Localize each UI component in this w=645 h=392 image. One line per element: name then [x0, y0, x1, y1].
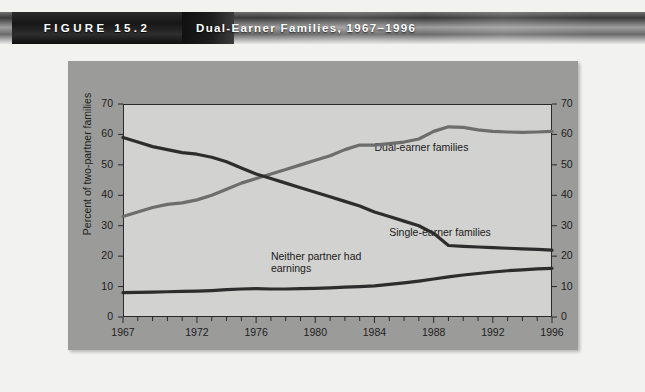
x-tick-label: 1996 — [532, 326, 572, 338]
y-tick-label-left: 50 — [89, 158, 113, 170]
series-annotation-neither-partner-had-earnings: Neither partner had earnings — [271, 250, 361, 274]
y-tick-label-left: 10 — [89, 280, 113, 292]
y-tick-label-left: 20 — [89, 249, 113, 261]
y-tick-label-left: 0 — [89, 310, 113, 322]
y-tick-label-right: 70 — [561, 97, 585, 109]
y-tick-label-left: 30 — [89, 219, 113, 231]
x-tick-label: 1967 — [103, 326, 143, 338]
x-tick-label: 1976 — [236, 326, 276, 338]
y-tick-label-right: 10 — [561, 280, 585, 292]
y-tick-label-right: 50 — [561, 158, 585, 170]
y-tick-label-right: 30 — [561, 219, 585, 231]
y-tick-label-left: 40 — [89, 188, 113, 200]
series-annotation-single-earner-families: Single-earner families — [389, 226, 491, 238]
x-tick-label: 1980 — [295, 326, 335, 338]
x-tick-label: 1972 — [177, 326, 217, 338]
y-tick-label-right: 60 — [561, 127, 585, 139]
y-tick-label-left: 60 — [89, 127, 113, 139]
y-tick-label-right: 40 — [561, 188, 585, 200]
series-annotation-dual-earner-families: Dual-earner families — [374, 141, 468, 153]
y-tick-label-right: 20 — [561, 249, 585, 261]
y-tick-label-left: 70 — [89, 97, 113, 109]
plot-area — [123, 104, 552, 317]
x-tick-label: 1988 — [414, 326, 454, 338]
figure-number-badge: FIGURE 15.2 — [12, 12, 182, 44]
figure-title: Dual-Earner Families, 1967–1996 — [196, 12, 416, 44]
figure-number-label: FIGURE 15.2 — [44, 22, 150, 34]
y-tick-label-right: 0 — [561, 310, 585, 322]
x-tick-label: 1992 — [473, 326, 513, 338]
x-tick-label: 1984 — [354, 326, 394, 338]
